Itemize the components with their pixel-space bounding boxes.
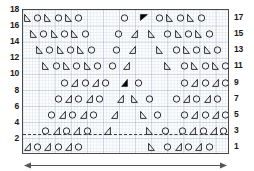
marker-triangle-left	[211, 110, 220, 120]
marker-circle	[101, 78, 110, 88]
right-tick-9: 9	[234, 78, 252, 87]
marker-circle	[47, 110, 56, 120]
marker-triangle-right	[211, 61, 220, 71]
marker-circle	[201, 110, 210, 120]
marker-circle	[155, 13, 164, 23]
right-tick-1: 1	[234, 142, 252, 151]
left-tick-2: 2	[1, 134, 19, 143]
marker-triangle-right	[139, 110, 148, 120]
marker-triangle-filled	[120, 78, 129, 88]
marker-triangle-left	[23, 142, 32, 152]
right-tick-17: 17	[234, 13, 252, 22]
right-tick-3: 3	[234, 126, 252, 135]
marker-triangle-right	[186, 13, 195, 23]
marker-triangle-right	[165, 13, 174, 23]
marker-circle	[120, 13, 129, 23]
marker-triangle-flipped-filled	[139, 13, 148, 23]
plot-area[interactable]	[22, 9, 229, 154]
marker-triangle-right	[64, 13, 73, 23]
marker-triangle-right	[62, 61, 71, 71]
marker-circle	[172, 45, 181, 55]
marker-circle	[66, 45, 75, 55]
marker-circle	[74, 94, 83, 104]
marker-triangle-right	[70, 29, 79, 39]
marker-triangle-right	[76, 45, 85, 55]
marker-circle	[81, 78, 90, 88]
marker-circle	[134, 78, 143, 88]
marker-triangle-right	[155, 45, 164, 55]
marker-circle	[221, 61, 229, 71]
marker-triangle-right	[163, 61, 172, 71]
left-tick-14: 14	[1, 37, 19, 46]
marker-circle	[87, 45, 96, 55]
marker-circle	[60, 78, 69, 88]
marker-circle	[201, 78, 210, 88]
right-tick-15: 15	[234, 29, 252, 38]
marker-triangle-right	[174, 29, 183, 39]
marker-triangle-left	[190, 78, 199, 88]
marker-circle	[205, 142, 214, 152]
marker-triangle-left	[194, 142, 203, 152]
marker-circle	[172, 94, 181, 104]
marker-triangle-right	[190, 61, 199, 71]
marker-triangle-right	[41, 61, 50, 71]
left-tick-8: 8	[1, 86, 19, 95]
data-row	[23, 76, 228, 90]
marker-triangle-right	[35, 45, 44, 55]
marker-circle	[221, 78, 229, 88]
left-tick-16: 16	[1, 21, 19, 30]
data-row	[23, 59, 228, 73]
marker-circle	[45, 45, 54, 55]
marker-circle	[180, 61, 189, 71]
marker-circle	[163, 142, 172, 152]
marker-circle	[72, 61, 81, 71]
marker-circle	[205, 29, 214, 39]
marker-triangle-left	[58, 110, 67, 120]
marker-circle	[54, 13, 63, 23]
marker-triangle-left	[122, 61, 131, 71]
marker-circle	[180, 110, 189, 120]
marker-circle	[176, 13, 185, 23]
data-row	[23, 43, 228, 57]
data-row	[23, 27, 228, 41]
marker-circle	[54, 142, 63, 152]
left-tick-4: 4	[1, 118, 19, 127]
span-arrow-icon	[24, 161, 227, 170]
marker-triangle-left	[174, 142, 183, 152]
marker-circle	[192, 45, 201, 55]
marker-circle	[201, 61, 210, 71]
marker-circle	[153, 110, 162, 120]
marker-triangle-left	[85, 94, 94, 104]
marker-circle	[33, 13, 42, 23]
marker-triangle-left	[211, 78, 220, 88]
marker-triangle-right	[56, 45, 65, 55]
marker-triangle-right	[130, 94, 139, 104]
marker-circle	[54, 94, 63, 104]
marker-circle	[213, 94, 222, 104]
marker-triangle-right	[203, 45, 212, 55]
right-tick-13: 13	[234, 45, 252, 54]
marker-triangle-left	[203, 94, 212, 104]
marker-triangle-left	[79, 110, 88, 120]
marker-triangle-left	[91, 78, 100, 88]
marker-circle	[213, 45, 222, 55]
marker-circle	[112, 45, 121, 55]
right-tick-11: 11	[234, 61, 252, 70]
marker-circle	[184, 142, 193, 152]
marker-circle	[108, 61, 117, 71]
marker-circle	[52, 61, 61, 71]
marker-circle	[68, 110, 77, 120]
left-tick-12: 12	[1, 53, 19, 62]
marker-circle	[184, 29, 193, 39]
marker-triangle-left	[64, 94, 73, 104]
marker-circle	[74, 142, 83, 152]
marker-triangle-left	[43, 142, 52, 152]
marker-triangle-right	[194, 29, 203, 39]
marker-triangle-right	[147, 29, 156, 39]
marker-triangle-right	[147, 142, 156, 152]
marker-triangle-left	[128, 45, 137, 55]
marker-circle	[60, 29, 69, 39]
marker-triangle-right	[182, 45, 191, 55]
left-tick-6: 6	[1, 102, 19, 111]
marker-circle	[192, 94, 201, 104]
